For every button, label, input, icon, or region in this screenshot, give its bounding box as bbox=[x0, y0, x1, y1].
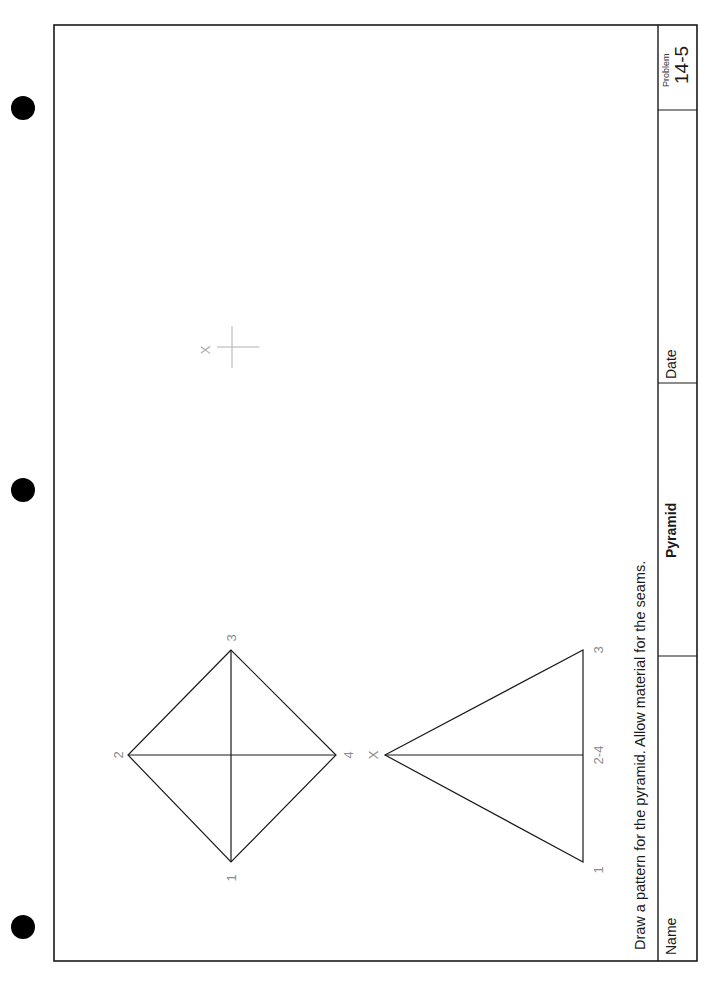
front-view-base-label-3: 3 bbox=[592, 646, 605, 653]
title-label: Pyramid bbox=[664, 503, 678, 558]
layout-marker-crosshair bbox=[217, 326, 259, 368]
top-view-label-3: 3 bbox=[225, 634, 238, 641]
problem-label: Problem bbox=[662, 53, 671, 87]
pyramid-front-view bbox=[385, 650, 583, 862]
front-view-base-label-2-4: 2-4 bbox=[592, 746, 605, 765]
instruction-text: Draw a pattern for the pyramid. Allow ma… bbox=[633, 561, 648, 950]
top-view-label-2: 2 bbox=[112, 751, 125, 758]
name-field-label: Name bbox=[664, 918, 678, 955]
front-view-base-label-1: 1 bbox=[592, 866, 605, 873]
layout-marker-label: X bbox=[199, 346, 212, 355]
date-field-label: Date bbox=[664, 349, 678, 379]
top-view-label-4: 4 bbox=[342, 751, 355, 758]
pyramid-top-view bbox=[128, 650, 336, 862]
top-view-label-1: 1 bbox=[225, 874, 238, 881]
worksheet-drawing bbox=[0, 0, 726, 981]
sheet-border bbox=[54, 25, 697, 961]
problem-number: 14-5 bbox=[672, 46, 691, 84]
front-view-apex-label: X bbox=[367, 751, 380, 760]
